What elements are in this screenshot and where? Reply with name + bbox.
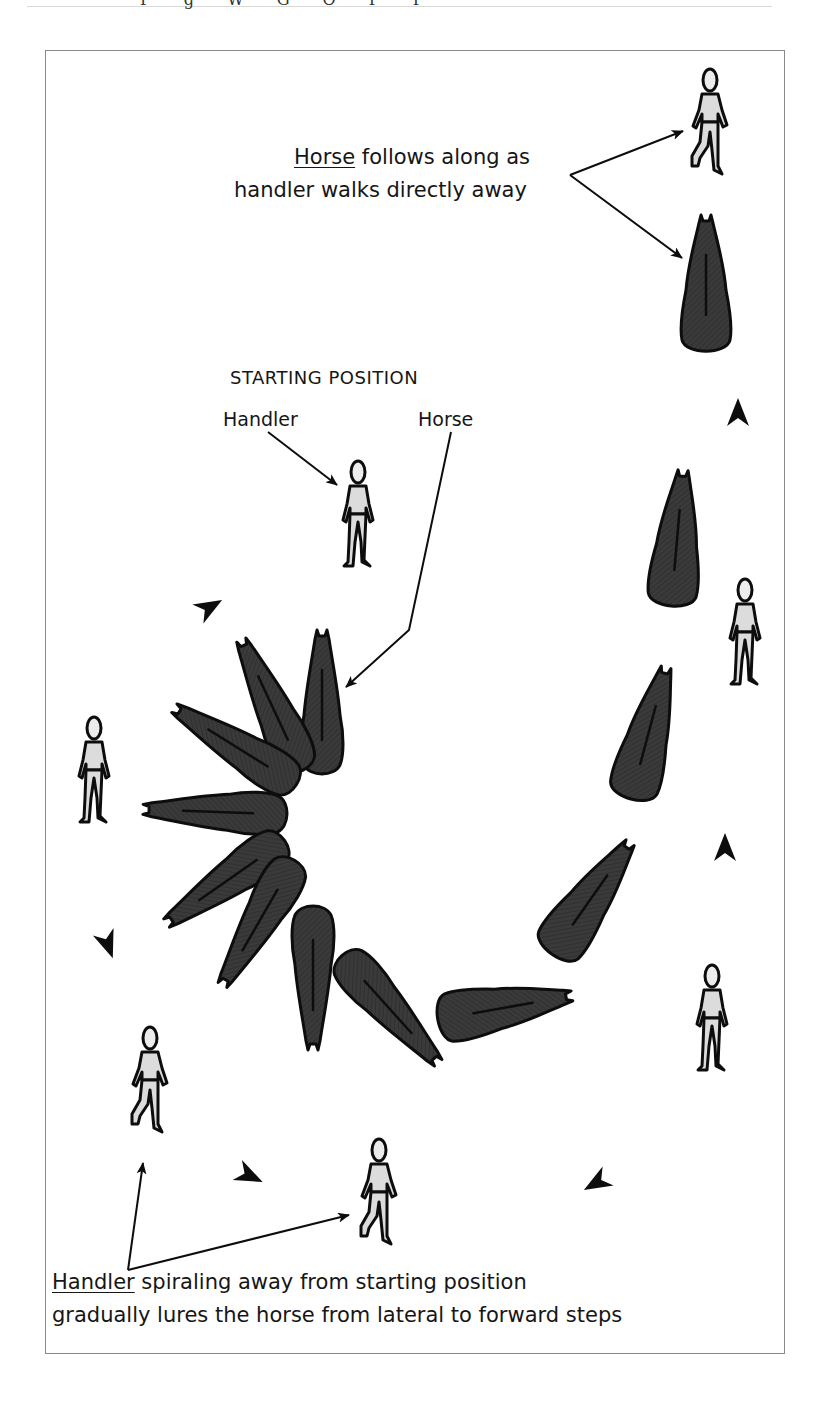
horse-label: Horse — [418, 408, 473, 430]
direction-arrow-icon — [192, 590, 227, 623]
handler-label: Handler — [223, 408, 298, 430]
bottom-caption-underlined: Handler — [52, 1270, 135, 1294]
handler-figure-start — [343, 461, 373, 566]
handler-figure-lower-right — [697, 965, 727, 1070]
direction-arrow-icon — [233, 1160, 268, 1192]
top-caption-line2: handler walks directly away — [234, 178, 527, 202]
handler-figure-top — [692, 69, 727, 174]
caption-pointer-arrows — [570, 131, 683, 258]
direction-arrow-icon — [727, 398, 749, 426]
handler-figure-left — [79, 717, 109, 822]
bottom-caption-line2: gradually lures the horse from lateral t… — [52, 1303, 622, 1327]
handler-figure-lower-left — [132, 1027, 167, 1132]
direction-arrow-icon — [714, 833, 736, 861]
top-caption-line1: Horse follows along as — [294, 145, 530, 169]
bottom-caption-line1: Handler spiraling away from starting pos… — [52, 1270, 527, 1294]
handler-figure-right — [730, 579, 760, 684]
handler-label-arrow — [268, 432, 337, 485]
bottom-caption-line1-rest: spiraling away from starting position — [135, 1270, 527, 1294]
top-caption-underlined: Horse — [294, 145, 355, 169]
horse-path-curve — [433, 468, 707, 1044]
diagram-canvas — [0, 0, 829, 1401]
handler-figure-bottom — [361, 1139, 396, 1244]
direction-arrow-icon — [93, 928, 123, 962]
horse-figure-top — [681, 215, 731, 351]
horse-fan-starting — [142, 630, 453, 1077]
top-caption-line1-rest: follows along as — [355, 145, 530, 169]
starting-position-title: STARTING POSITION — [230, 367, 418, 388]
direction-arrow-icon — [578, 1166, 613, 1199]
